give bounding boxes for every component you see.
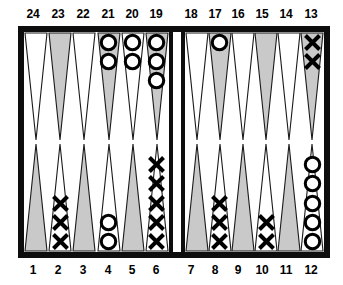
checker-x-point-13[interactable] — [303, 33, 322, 52]
point-8[interactable] — [208, 142, 232, 252]
point-7[interactable] — [185, 142, 209, 252]
point-6[interactable] — [145, 142, 169, 252]
checker-x-point-10[interactable] — [257, 232, 276, 251]
point-5[interactable] — [121, 142, 145, 252]
point-1[interactable] — [24, 142, 48, 252]
checker-o-glyph — [99, 52, 118, 71]
quadrant-top-right — [185, 32, 324, 142]
point-18[interactable] — [185, 32, 209, 142]
checker-o-point-20[interactable] — [123, 52, 142, 71]
point-label-21: 21 — [95, 6, 121, 22]
checker-x-glyph — [210, 194, 229, 213]
checker-x-glyph — [303, 52, 322, 71]
point-13[interactable] — [300, 32, 324, 142]
point-triangle-shape — [185, 142, 209, 252]
checker-x-point-8[interactable] — [210, 232, 229, 251]
checker-o-point-12[interactable] — [303, 155, 322, 174]
quadrant-bottom-left — [24, 142, 169, 252]
board-frame — [18, 26, 330, 258]
point-4[interactable] — [97, 142, 121, 252]
checker-o-point-19[interactable] — [147, 52, 166, 71]
point-label-7: 7 — [178, 262, 204, 278]
checker-o-point-21[interactable] — [99, 52, 118, 71]
checker-o-point-4[interactable] — [99, 213, 118, 232]
point-label-11: 11 — [273, 262, 299, 278]
checker-x-point-6[interactable] — [147, 232, 166, 251]
point-16[interactable] — [231, 32, 255, 142]
point-label-9: 9 — [225, 262, 251, 278]
point-24[interactable] — [24, 32, 48, 142]
checker-o-glyph — [147, 52, 166, 71]
point-12[interactable] — [300, 142, 324, 252]
checker-x-glyph — [257, 213, 276, 232]
checker-o-point-12[interactable] — [303, 174, 322, 193]
point-label-19: 19 — [143, 6, 169, 22]
checker-o-point-12[interactable] — [303, 194, 322, 213]
checker-x-glyph — [51, 232, 70, 251]
checker-x-point-2[interactable] — [51, 194, 70, 213]
checker-o-glyph — [303, 174, 322, 193]
point-10[interactable] — [254, 142, 278, 252]
checker-x-point-6[interactable] — [147, 174, 166, 193]
checker-o-glyph — [123, 33, 142, 52]
point-15[interactable] — [254, 32, 278, 142]
backgammon-board-figure: 242322212019181716151413 123456789101112 — [0, 0, 343, 285]
checker-o-point-21[interactable] — [99, 33, 118, 52]
point-17[interactable] — [208, 32, 232, 142]
quadrant-bottom-right — [185, 142, 324, 252]
checker-x-glyph — [210, 232, 229, 251]
point-triangle-shape — [72, 142, 96, 252]
point-3[interactable] — [72, 142, 96, 252]
checker-o-point-12[interactable] — [303, 232, 322, 251]
checker-o-point-12[interactable] — [303, 213, 322, 232]
center-bar[interactable] — [169, 32, 185, 252]
checker-o-point-19[interactable] — [147, 71, 166, 90]
point-14[interactable] — [277, 32, 301, 142]
point-triangle-shape — [254, 32, 278, 142]
checker-x-point-8[interactable] — [210, 194, 229, 213]
point-label-18: 18 — [178, 6, 204, 22]
point-20[interactable] — [121, 32, 145, 142]
point-label-4: 4 — [95, 262, 121, 278]
checker-o-point-20[interactable] — [123, 33, 142, 52]
checker-x-point-6[interactable] — [147, 155, 166, 174]
checker-o-glyph — [99, 232, 118, 251]
point-triangle-shape — [24, 142, 48, 252]
point-2[interactable] — [48, 142, 72, 252]
checker-x-glyph — [147, 174, 166, 193]
checker-x-glyph — [147, 194, 166, 213]
checker-x-glyph — [147, 213, 166, 232]
checker-x-point-6[interactable] — [147, 213, 166, 232]
checker-o-glyph — [99, 213, 118, 232]
checker-x-point-6[interactable] — [147, 194, 166, 213]
point-label-1: 1 — [20, 262, 46, 278]
point-23[interactable] — [48, 32, 72, 142]
point-22[interactable] — [72, 32, 96, 142]
point-label-3: 3 — [70, 262, 96, 278]
top-point-labels: 242322212019181716151413 — [0, 6, 343, 24]
checker-x-point-2[interactable] — [51, 232, 70, 251]
checker-o-glyph — [303, 194, 322, 213]
point-9[interactable] — [231, 142, 255, 252]
checker-x-point-13[interactable] — [303, 52, 322, 71]
point-19[interactable] — [145, 32, 169, 142]
checker-o-glyph — [303, 155, 322, 174]
checker-o-point-4[interactable] — [99, 232, 118, 251]
checker-x-point-2[interactable] — [51, 213, 70, 232]
checker-x-point-8[interactable] — [210, 213, 229, 232]
point-label-12: 12 — [298, 262, 324, 278]
checker-o-point-17[interactable] — [210, 33, 229, 52]
checker-x-point-10[interactable] — [257, 213, 276, 232]
board-playing-field — [24, 32, 324, 252]
point-11[interactable] — [277, 142, 301, 252]
point-21[interactable] — [97, 32, 121, 142]
bottom-point-labels: 123456789101112 — [0, 262, 343, 280]
point-label-14: 14 — [273, 6, 299, 22]
point-label-20: 20 — [119, 6, 145, 22]
point-label-5: 5 — [119, 262, 145, 278]
checker-o-point-19[interactable] — [147, 33, 166, 52]
checker-x-glyph — [51, 213, 70, 232]
point-label-16: 16 — [225, 6, 251, 22]
point-label-2: 2 — [45, 262, 71, 278]
checker-x-glyph — [51, 194, 70, 213]
